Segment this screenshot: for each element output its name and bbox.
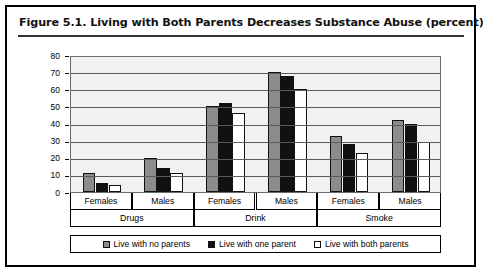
legend-item: Live with one parent <box>208 239 296 249</box>
category-label: Females <box>317 193 379 210</box>
gridline <box>71 90 440 91</box>
group-label: Drugs <box>70 210 194 227</box>
y-axis-tick-label: 40 <box>26 120 60 129</box>
gridline <box>71 125 440 126</box>
group-label: Smoke <box>317 210 441 227</box>
legend-swatch-icon <box>314 241 321 248</box>
bar <box>206 106 219 192</box>
legend-label: Live with both parents <box>325 239 409 249</box>
y-axis-tick-mark <box>65 176 69 177</box>
bar <box>219 103 232 192</box>
bar <box>405 124 418 193</box>
y-axis-tick-label: 50 <box>26 103 60 112</box>
y-axis-tick-mark <box>65 159 69 160</box>
plot-area <box>70 56 441 193</box>
legend-label: Live with no parents <box>114 239 190 249</box>
bar <box>144 158 157 192</box>
bar <box>392 120 405 192</box>
gridline <box>71 176 440 177</box>
bar <box>109 185 122 192</box>
category-label: Females <box>70 193 132 210</box>
y-axis-tick-label: 30 <box>26 137 60 146</box>
y-axis-tick-mark <box>65 193 69 194</box>
bar <box>343 144 356 192</box>
category-axis: FemalesMalesFemalesMalesFemalesMales <box>70 193 441 210</box>
y-axis-tick-label: 0 <box>26 189 60 198</box>
category-label: Males <box>132 193 194 210</box>
category-label: Males <box>379 193 441 210</box>
group-label: Drink <box>194 210 318 227</box>
legend-swatch-icon <box>103 241 110 248</box>
bar <box>281 76 294 192</box>
gridline <box>71 159 440 160</box>
legend-swatch-icon <box>208 241 215 248</box>
bar <box>157 168 170 192</box>
legend-label: Live with one parent <box>219 239 296 249</box>
y-axis-tick-label: 20 <box>26 154 60 163</box>
bar <box>96 183 109 192</box>
legend-item: Live with no parents <box>103 239 190 249</box>
y-axis-tick-mark <box>65 56 69 57</box>
category-label: Females <box>194 193 256 210</box>
group-axis: DrugsDrinkSmoke <box>70 210 441 227</box>
y-axis-tick-mark <box>65 73 69 74</box>
figure-title: Figure 5.1. Living with Both Parents Dec… <box>19 16 459 29</box>
y-axis-tick-mark <box>65 142 69 143</box>
y-axis-tick-mark <box>65 125 69 126</box>
gridline <box>71 107 440 108</box>
legend-item: Live with both parents <box>314 239 409 249</box>
chart-area: 01020304050607080 FemalesMalesFemalesMal… <box>18 43 466 259</box>
bar <box>330 136 343 193</box>
y-axis-tick-label: 60 <box>26 86 60 95</box>
chart-legend: Live with no parentsLive with one parent… <box>70 235 441 253</box>
figure-card: Figure 5.1. Living with Both Parents Dec… <box>5 5 476 267</box>
y-axis-tick-mark <box>65 107 69 108</box>
title-divider <box>18 35 464 37</box>
y-axis-tick-label: 10 <box>26 171 60 180</box>
y-axis-tick-label: 70 <box>26 69 60 78</box>
y-axis-tick-mark <box>65 90 69 91</box>
y-axis-tick-label: 80 <box>26 52 60 61</box>
gridline <box>71 142 440 143</box>
bar <box>418 142 431 192</box>
gridline <box>71 73 440 74</box>
category-label: Males <box>256 193 318 210</box>
